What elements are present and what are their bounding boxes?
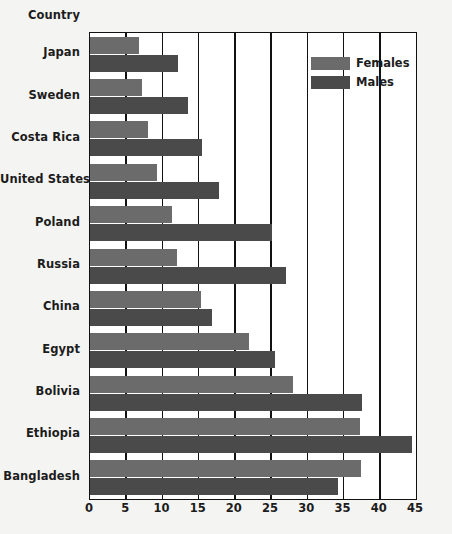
category-label-ethiopia: Ethiopia (0, 426, 80, 440)
legend-label-males: Males (356, 75, 394, 89)
bar-bolivia-females (90, 376, 293, 393)
x-tick-label-35: 35 (335, 501, 351, 515)
x-tick-label-45: 45 (407, 501, 423, 515)
bar-costa-rica-males (90, 139, 202, 156)
category-label-united-states: United States (0, 172, 80, 186)
category-label-costa-rica: Costa Rica (0, 130, 80, 144)
x-tick-label-25: 25 (262, 501, 278, 515)
x-tick-label-15: 15 (190, 501, 206, 515)
category-label-china: China (0, 299, 80, 313)
x-tick-label-10: 10 (153, 501, 169, 515)
x-tick-label-20: 20 (226, 501, 242, 515)
bar-china-males (90, 309, 212, 326)
category-label-egypt: Egypt (0, 342, 80, 356)
bar-egypt-males (90, 351, 275, 368)
x-tick-label-40: 40 (371, 501, 387, 515)
bar-sweden-males (90, 97, 188, 114)
bar-japan-males (90, 55, 178, 72)
x-tick-label-0: 0 (85, 501, 93, 515)
bar-bolivia-males (90, 394, 362, 411)
bar-bangladesh-females (90, 460, 361, 477)
legend-item-males: Males (311, 76, 419, 90)
bar-egypt-females (90, 333, 249, 350)
x-tick-label-30: 30 (298, 501, 314, 515)
bar-ethiopia-females (90, 418, 360, 435)
category-label-bangladesh: Bangladesh (0, 469, 80, 483)
bar-united-states-males (90, 182, 219, 199)
category-label-poland: Poland (0, 215, 80, 229)
legend-swatch-females (311, 57, 350, 70)
legend-swatch-males (311, 76, 350, 89)
bar-poland-males (90, 224, 272, 241)
bar-russia-males (90, 267, 286, 284)
chart-figure: Country JapanSwedenCosta RicaUnited Stat… (0, 0, 452, 534)
bar-costa-rica-females (90, 121, 148, 138)
plot-area (89, 32, 417, 500)
y-axis-title: Country (0, 8, 80, 22)
bar-bangladesh-males (90, 478, 338, 495)
bar-ethiopia-males (90, 436, 412, 453)
category-label-sweden: Sweden (0, 88, 80, 102)
bar-japan-females (90, 37, 139, 54)
x-axis-tick-labels: 051015202530354045 (89, 501, 415, 523)
category-label-russia: Russia (0, 257, 80, 271)
category-label-column: JapanSwedenCosta RicaUnited StatesPoland… (0, 32, 80, 498)
bar-united-states-females (90, 164, 157, 181)
gridline-40 (379, 33, 381, 499)
bar-china-females (90, 291, 201, 308)
chart-legend: FemalesMales (311, 57, 419, 95)
x-tick-label-5: 5 (121, 501, 129, 515)
bar-sweden-females (90, 79, 142, 96)
legend-item-females: Females (311, 57, 419, 71)
category-label-bolivia: Bolivia (0, 384, 80, 398)
legend-label-females: Females (356, 56, 410, 70)
bar-poland-females (90, 206, 172, 223)
category-label-japan: Japan (0, 45, 80, 59)
bar-russia-females (90, 249, 177, 266)
